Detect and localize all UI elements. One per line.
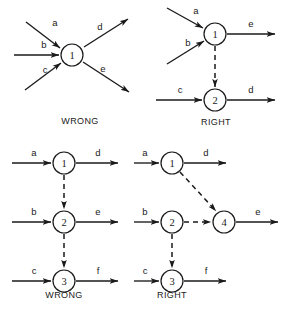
activity-edge-top-left-e (83, 62, 129, 92)
edge-label-top-left-b: b (41, 39, 46, 50)
node-label-bottom-left-n2: 2 (61, 217, 66, 228)
edge-label-top-left-c: c (43, 64, 48, 75)
diagram-panel-top-right: abecd12RIGHT (156, 5, 275, 127)
activity-edge-top-left-d (84, 19, 128, 47)
edge-label-bottom-right-a: a (142, 147, 148, 158)
edge-label-top-left-d: d (97, 21, 102, 32)
edge-label-bottom-left-a: a (31, 147, 37, 158)
edge-label-bottom-right-e: e (255, 206, 260, 217)
edge-label-bottom-right-b: b (142, 206, 147, 217)
verdict-label-top-right: RIGHT (201, 117, 231, 127)
activity-network-figure: abcde1WRONGabecd12RIGHTadbecf123WRONGadb… (0, 0, 284, 309)
edge-label-bottom-left-e: e (95, 206, 100, 217)
node-label-bottom-left-n3: 3 (61, 276, 66, 287)
diagram-panel-top-left: abcde1WRONG (14, 17, 129, 126)
edge-label-bottom-right-d: d (203, 147, 208, 158)
edge-label-top-left-e: e (100, 63, 105, 74)
edge-label-bottom-left-b: b (31, 206, 36, 217)
edge-label-top-right-b: b (185, 37, 190, 48)
edge-label-top-right-c: c (178, 84, 183, 95)
verdict-label-top-left: WRONG (61, 116, 99, 126)
diagram-panel-bottom-right: adbecf1234RIGHT (134, 147, 278, 300)
edge-label-top-right-d: d (248, 84, 253, 95)
dummy-edge-bottom-right-dummy1 (180, 172, 216, 211)
node-label-bottom-right-n3: 3 (169, 276, 174, 287)
panels-layer: abcde1WRONGabecd12RIGHTadbecf123WRONGadb… (12, 5, 278, 300)
verdict-label-bottom-left: WRONG (45, 290, 83, 300)
edge-label-bottom-left-d: d (95, 147, 100, 158)
node-label-top-left-n1: 1 (69, 50, 74, 61)
node-label-bottom-right-n1: 1 (169, 158, 174, 169)
node-label-bottom-right-n2: 2 (169, 217, 174, 228)
node-label-top-right-n1: 1 (212, 29, 217, 40)
node-label-top-right-n2: 2 (212, 95, 217, 106)
figure-root: abcde1WRONGabecd12RIGHTadbecf123WRONGadb… (0, 0, 284, 309)
edge-label-top-right-e: e (248, 18, 253, 29)
edge-label-bottom-right-f: f (205, 265, 208, 276)
edge-label-bottom-left-c: c (32, 265, 37, 276)
edge-label-bottom-right-c: c (143, 265, 148, 276)
edge-label-bottom-left-f: f (97, 265, 100, 276)
edge-label-top-right-a: a (193, 5, 199, 16)
edge-label-top-left-a: a (52, 17, 58, 28)
diagram-panel-bottom-left: adbecf123WRONG (12, 147, 118, 300)
node-label-bottom-left-n1: 1 (61, 158, 66, 169)
verdict-label-bottom-right: RIGHT (157, 290, 187, 300)
node-label-bottom-right-n4: 4 (221, 217, 227, 228)
